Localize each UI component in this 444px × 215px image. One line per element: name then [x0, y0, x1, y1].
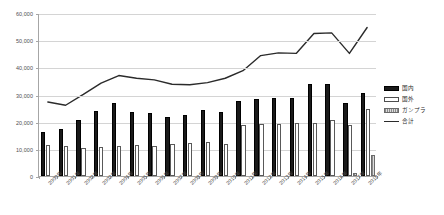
plot-area [38, 14, 376, 177]
bar-国外 [295, 123, 299, 176]
bar-国内 [219, 112, 223, 176]
bar-国内 [361, 93, 365, 176]
bar-国外 [330, 120, 334, 176]
bar-国外 [313, 123, 317, 176]
legend-swatch-gunpla-icon [384, 108, 399, 113]
bar-国外 [117, 146, 121, 176]
bar-国外 [206, 142, 210, 176]
category-group [110, 14, 128, 176]
bar-国内 [41, 132, 45, 176]
bar-国外 [241, 125, 245, 176]
bar-国内 [308, 84, 312, 176]
bar-国内 [148, 113, 152, 176]
legend-label: 国外 [402, 95, 414, 103]
bar-国外 [224, 144, 228, 176]
bar-国外 [152, 146, 156, 176]
category-group [199, 14, 217, 176]
category-group [128, 14, 146, 176]
x-axis-tick [39, 176, 40, 179]
y-axis-label: 60,000 [0, 11, 33, 17]
legend-item-total[interactable]: 合計 [384, 116, 442, 126]
category-group [324, 14, 342, 176]
legend-item-gunpla[interactable]: ガンプラ [384, 105, 442, 115]
bar-国内 [236, 101, 240, 176]
bar-国外 [348, 125, 352, 176]
bar-国内 [254, 99, 258, 176]
category-group [341, 14, 359, 176]
bar-国内 [201, 110, 205, 176]
bar-国内 [343, 103, 347, 176]
category-group [235, 14, 253, 176]
legend-swatch-overseas-icon [384, 97, 399, 102]
bar-国内 [112, 103, 116, 176]
legend-swatch-domestic-icon [384, 86, 399, 91]
legend-swatch-total-icon [384, 121, 399, 122]
bar-国外 [135, 145, 139, 177]
bar-国外 [99, 147, 103, 176]
legend-label: 合計 [402, 117, 414, 125]
bar-国内 [290, 98, 294, 176]
category-group [359, 14, 377, 176]
bar-国外 [46, 145, 50, 177]
bar-国内 [76, 120, 80, 177]
category-group [252, 14, 270, 176]
legend-label: ガンプラ [402, 106, 426, 114]
legend-item-domestic[interactable]: 国内 [384, 83, 442, 93]
chart-container: 010,00020,00030,00040,00050,00060,000 20… [0, 0, 444, 215]
y-axis-label: 10,000 [0, 147, 33, 153]
bar-国外 [259, 124, 263, 176]
category-group [146, 14, 164, 176]
legend-item-overseas[interactable]: 国外 [384, 94, 442, 104]
bar-国内 [183, 115, 187, 176]
legend-label: 国内 [402, 84, 414, 92]
bar-国内 [165, 117, 169, 176]
category-group [92, 14, 110, 176]
bar-国内 [325, 84, 329, 176]
category-group [270, 14, 288, 176]
y-axis-label: 30,000 [0, 93, 33, 99]
category-group [288, 14, 306, 176]
category-group [306, 14, 324, 176]
bar-国内 [272, 98, 276, 176]
category-group [181, 14, 199, 176]
bar-国外 [170, 144, 174, 176]
y-axis-label: 40,000 [0, 65, 33, 71]
y-axis-label: 0 [0, 174, 33, 180]
bar-国外 [188, 143, 192, 176]
bar-国外 [64, 146, 68, 176]
category-group [217, 14, 235, 176]
y-axis-label: 20,000 [0, 120, 33, 126]
chart-legend: 国内国外ガンプラ合計 [384, 83, 442, 127]
category-group [164, 14, 182, 176]
bar-国内 [94, 111, 98, 176]
category-group [39, 14, 57, 176]
bar-国外 [277, 124, 281, 176]
category-group [75, 14, 93, 176]
bar-国外 [366, 109, 370, 176]
bar-国外 [81, 148, 85, 176]
bar-国内 [59, 129, 63, 176]
bar-国内 [130, 112, 134, 176]
category-group [57, 14, 75, 176]
y-axis-label: 50,000 [0, 38, 33, 44]
